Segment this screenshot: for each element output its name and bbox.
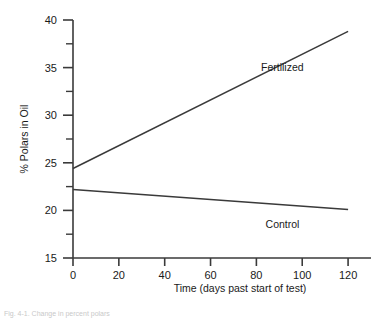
x-tick-label: 100 <box>293 269 311 281</box>
series-label-control: Control <box>266 218 300 230</box>
line-chart: 152025303540 020406080100120 FertilizedC… <box>0 0 390 318</box>
y-axis-tick-labels: 152025303540 <box>45 14 57 264</box>
x-tick-label: 60 <box>204 269 216 281</box>
data-series-group <box>73 31 348 209</box>
y-tick-label: 25 <box>45 157 57 169</box>
y-tick-label: 20 <box>45 204 57 216</box>
y-tick-label: 30 <box>45 109 57 121</box>
x-axis-title: Time (days past start of test) <box>174 282 307 294</box>
y-tick-label: 15 <box>45 252 57 264</box>
x-tick-label: 80 <box>250 269 262 281</box>
x-tick-label: 120 <box>339 269 357 281</box>
y-tick-label: 40 <box>45 14 57 26</box>
series-line-fertilized <box>73 31 348 168</box>
figure-container: 152025303540 020406080100120 FertilizedC… <box>0 0 390 318</box>
x-tick-label: 40 <box>159 269 171 281</box>
series-label-fertilized: Fertilized <box>261 61 304 73</box>
y-tick-label: 35 <box>45 62 57 74</box>
x-axis-major-ticks <box>73 258 348 266</box>
y-axis-minor-ticks <box>66 44 73 234</box>
y-axis-title: % Polars in Oil <box>18 105 30 174</box>
x-tick-label: 0 <box>70 269 76 281</box>
x-tick-label: 20 <box>113 269 125 281</box>
series-line-control <box>73 189 348 209</box>
x-axis-tick-labels: 020406080100120 <box>70 269 357 281</box>
figure-caption: Fig. 4-1. Change in percent polars <box>4 310 110 318</box>
